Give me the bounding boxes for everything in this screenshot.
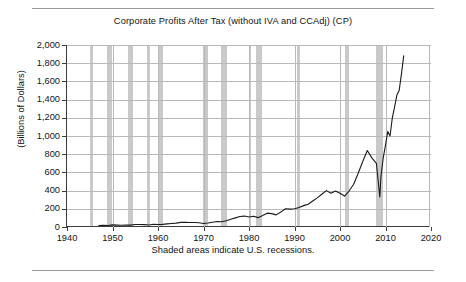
x-tick-mark — [158, 227, 159, 231]
x-tick-mark — [113, 227, 114, 231]
plot-area: 02004006008001,0001,2001,4001,6001,8002,… — [66, 45, 430, 227]
y-tick-label: 1,800 — [5, 59, 60, 68]
x-tick-label: 1980 — [227, 233, 271, 243]
chart-footnote: Shaded areas indicate U.S. recessions. — [0, 245, 466, 255]
x-tick-mark — [431, 227, 432, 231]
x-tick-mark — [386, 227, 387, 231]
x-tick-mark — [295, 227, 296, 231]
data-series-corporate-profits — [67, 45, 431, 227]
x-tick-label: 1940 — [45, 233, 89, 243]
y-tick-label: 200 — [5, 204, 60, 213]
x-tick-mark — [204, 227, 205, 231]
x-tick-label: 2020 — [409, 233, 453, 243]
x-tick-label: 1990 — [273, 233, 317, 243]
y-tick-label: 400 — [5, 186, 60, 195]
chart-figure: Corporate Profits After Tax (without IVA… — [0, 0, 466, 282]
y-tick-label: 0 — [5, 223, 60, 232]
x-tick-label: 2010 — [364, 233, 408, 243]
y-tick-label: 1,400 — [5, 95, 60, 104]
x-tick-label: 2000 — [318, 233, 362, 243]
x-tick-mark — [67, 227, 68, 231]
series-polyline — [99, 56, 404, 226]
x-tick-label: 1970 — [182, 233, 226, 243]
x-tick-mark — [340, 227, 341, 231]
chart-title: Corporate Profits After Tax (without IVA… — [0, 16, 466, 26]
x-tick-label: 1960 — [136, 233, 180, 243]
y-tick-label: 800 — [5, 150, 60, 159]
y-tick-label: 600 — [5, 168, 60, 177]
y-tick-label: 1,600 — [5, 77, 60, 86]
y-tick-label: 1,200 — [5, 113, 60, 122]
y-tick-label: 1,000 — [5, 132, 60, 141]
y-tick-label: 2,000 — [5, 41, 60, 50]
x-tick-mark — [249, 227, 250, 231]
x-tick-label: 1950 — [91, 233, 135, 243]
